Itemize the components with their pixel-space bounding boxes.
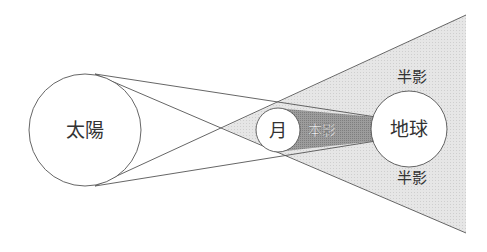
moon-label: 月 bbox=[269, 120, 287, 141]
eclipse-diagram: 太陽 月 地球 本影 半影 半影 bbox=[0, 0, 487, 252]
penumbra-top-label: 半影 bbox=[397, 68, 427, 86]
penumbra-bottom-label: 半影 bbox=[397, 169, 427, 187]
sun-label: 太陽 bbox=[66, 119, 104, 141]
umbra-label: 本影 bbox=[308, 122, 336, 138]
earth-label: 地球 bbox=[390, 118, 428, 140]
